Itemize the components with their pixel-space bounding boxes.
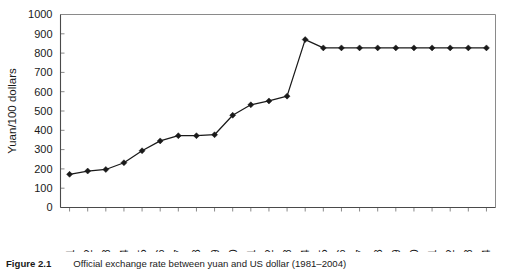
svg-text:1984: 1984	[118, 249, 130, 252]
y-axis-ticks	[61, 15, 65, 208]
svg-text:1993: 1993	[281, 249, 293, 252]
series-markers	[67, 37, 490, 178]
series-line-exchange-rate	[70, 40, 487, 175]
svg-text:1996: 1996	[335, 249, 347, 252]
svg-text:1989: 1989	[209, 249, 221, 252]
svg-text:1991: 1991	[245, 249, 257, 252]
svg-text:400: 400	[34, 124, 52, 136]
svg-text:200: 200	[34, 163, 52, 175]
svg-text:800: 800	[34, 47, 52, 59]
svg-text:0: 0	[46, 201, 52, 213]
svg-text:1992: 1992	[263, 249, 275, 252]
svg-text:1994: 1994	[299, 249, 311, 252]
svg-text:1988: 1988	[190, 249, 202, 252]
svg-text:1997: 1997	[354, 249, 366, 252]
svg-text:700: 700	[34, 66, 52, 78]
svg-text:1990: 1990	[227, 249, 239, 252]
svg-text:500: 500	[34, 105, 52, 117]
svg-text:1985: 1985	[136, 249, 148, 252]
x-axis-tick-labels: 1981198219831984198519861987198819891990…	[64, 249, 493, 252]
svg-text:1998: 1998	[372, 249, 384, 252]
y-axis-tick-labels: 01002003004005006007008009001000	[28, 8, 52, 213]
figure-caption-label: Figure 2.1	[6, 258, 51, 269]
x-axis-ticks	[70, 208, 487, 212]
svg-text:1999: 1999	[390, 249, 402, 252]
svg-text:1981: 1981	[64, 249, 76, 252]
svg-text:600: 600	[34, 86, 52, 98]
svg-text:2001: 2001	[426, 249, 438, 252]
figure-container: 01002003004005006007008009001000 1981198…	[0, 0, 510, 280]
svg-text:300: 300	[34, 143, 52, 155]
svg-text:2003: 2003	[462, 249, 474, 252]
svg-text:2004: 2004	[480, 249, 492, 252]
svg-text:900: 900	[34, 28, 52, 40]
svg-text:1000: 1000	[28, 8, 52, 20]
figure-caption: Figure 2.1Official exchange rate between…	[6, 258, 506, 270]
y-axis-title: Yuan/100 dollars	[6, 68, 18, 154]
svg-text:1982: 1982	[82, 249, 94, 252]
svg-text:1987: 1987	[172, 249, 184, 252]
svg-text:1986: 1986	[154, 249, 166, 252]
svg-text:100: 100	[34, 182, 52, 194]
svg-text:1995: 1995	[317, 249, 329, 252]
exchange-rate-line-chart: 01002003004005006007008009001000 1981198…	[0, 0, 510, 252]
svg-text:2002: 2002	[444, 249, 456, 252]
svg-text:1983: 1983	[100, 249, 112, 252]
svg-text:2000: 2000	[408, 249, 420, 252]
figure-caption-text: Official exchange rate between yuan and …	[73, 258, 346, 269]
